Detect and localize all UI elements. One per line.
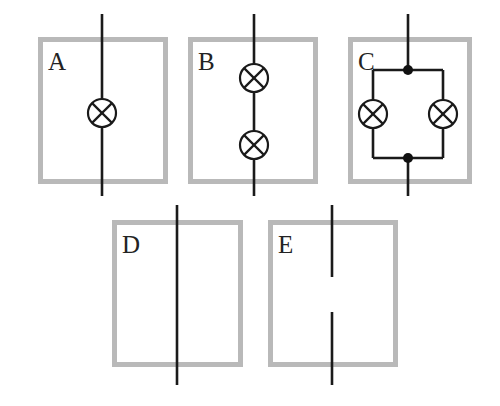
panel-label-b: B	[198, 48, 215, 75]
panel-label-d: D	[122, 231, 140, 258]
lamp-circle-cross-icon	[240, 64, 268, 92]
junction-dot-icon	[403, 65, 413, 75]
circuit-diagram: ABCDE	[0, 0, 500, 406]
lamp-circle-cross-icon	[429, 100, 457, 128]
panel-label-a: A	[48, 48, 66, 75]
panel-b: B	[191, 14, 316, 196]
panel-c: C	[351, 14, 470, 196]
panel-e: E	[271, 205, 396, 385]
panel-d: D	[115, 205, 241, 385]
panel-a: A	[41, 14, 166, 196]
lamp-circle-cross-icon	[88, 99, 116, 127]
lamp-circle-cross-icon	[240, 131, 268, 159]
panel-label-e: E	[278, 231, 293, 258]
circuit-figure-root: ABCDE	[0, 0, 500, 406]
lamp-circle-cross-icon	[359, 100, 387, 128]
junction-dot-icon	[403, 153, 413, 163]
